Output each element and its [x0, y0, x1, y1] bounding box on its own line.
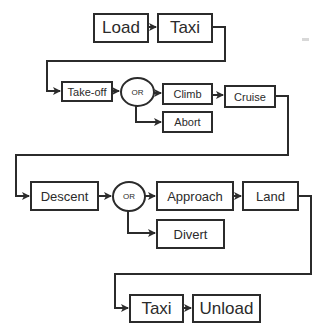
- edge-or-abort: [136, 106, 161, 122]
- node-cruise-label: Cruise: [234, 91, 266, 103]
- node-climb-label: Climb: [173, 88, 201, 100]
- node-descent-label: Descent: [41, 189, 89, 204]
- node-climb: Climb: [162, 83, 213, 105]
- edge-land-taxi: [115, 196, 311, 308]
- node-taxi-out: Taxi: [157, 13, 213, 43]
- node-abort-label: Abort: [174, 116, 200, 128]
- node-cruise: Cruise: [224, 85, 276, 108]
- node-takeoff-label: Take-off: [68, 86, 107, 98]
- node-taxi-out-label: Taxi: [170, 18, 200, 38]
- node-load-label: Load: [102, 18, 140, 38]
- node-divert: Divert: [156, 219, 225, 249]
- node-or-gate-1-label: OR: [132, 88, 144, 97]
- node-descent: Descent: [30, 181, 99, 211]
- node-unload-label: Unload: [200, 299, 254, 319]
- scan-artifact: [302, 38, 309, 41]
- node-load: Load: [93, 13, 149, 43]
- node-approach: Approach: [156, 181, 234, 211]
- connector-lines: [0, 0, 326, 336]
- node-or-gate-1: OR: [120, 77, 155, 107]
- node-approach-label: Approach: [167, 189, 223, 204]
- node-takeoff: Take-off: [61, 81, 113, 102]
- node-or-gate-2: OR: [112, 181, 146, 212]
- edge-or-divert: [128, 211, 155, 233]
- flight-phase-diagram: Load Taxi Take-off OR Climb Abort Cruise…: [0, 0, 326, 336]
- node-taxi-in: Taxi: [129, 294, 184, 323]
- node-taxi-in-label: Taxi: [141, 299, 171, 319]
- node-land-label: Land: [256, 189, 285, 204]
- node-unload: Unload: [192, 294, 261, 323]
- node-abort: Abort: [162, 111, 213, 133]
- node-or-gate-2-label: OR: [123, 192, 135, 201]
- node-land: Land: [242, 181, 299, 211]
- node-divert-label: Divert: [174, 227, 208, 242]
